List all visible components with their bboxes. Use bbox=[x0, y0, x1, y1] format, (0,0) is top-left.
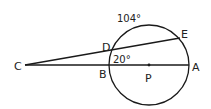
label-e: E bbox=[181, 28, 188, 41]
geometry-diagram: C D E B P A 104° 20° bbox=[0, 0, 211, 109]
label-a: A bbox=[192, 61, 200, 74]
label-d: D bbox=[102, 41, 110, 54]
label-p: P bbox=[145, 72, 152, 85]
label-b: B bbox=[99, 68, 107, 81]
center-point-p bbox=[148, 64, 151, 67]
arc-measure-label: 104° bbox=[117, 13, 141, 24]
angle-measure-label: 20° bbox=[113, 54, 131, 65]
label-c: C bbox=[14, 60, 22, 73]
